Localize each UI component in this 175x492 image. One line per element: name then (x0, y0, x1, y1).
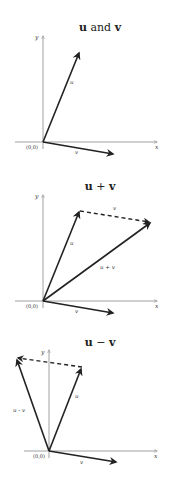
vector-negative-v-translated (18, 358, 82, 367)
panel-u-and-v: u and v y x (0,0) u v (15, 21, 159, 155)
panel-title: u − v (85, 336, 116, 349)
origin-label: (0,0) (26, 144, 38, 150)
y-axis-label: y (34, 33, 39, 41)
panel-title: u + v (85, 180, 116, 193)
vector-v-label: v (75, 308, 79, 314)
x-axis-label: x (154, 452, 158, 459)
vector-u-label: u (75, 393, 79, 399)
origin-label: (0,0) (33, 453, 45, 459)
vector-u-minus-v (17, 360, 49, 451)
origin-label: (0,0) (26, 303, 38, 309)
vector-u (43, 53, 79, 142)
vector-u-minus-v-label: u - v (13, 407, 26, 413)
y-axis-label: y (34, 192, 39, 200)
panel-u-minus-v: u − v y x (0,0) u v u - v (13, 336, 158, 465)
panel-title: u and v (79, 21, 122, 34)
y-axis-label: y (40, 348, 45, 356)
x-axis-label: x (155, 302, 159, 309)
vector-u-label: u (70, 79, 74, 85)
x-axis-label: x (155, 143, 159, 150)
vector-u-label: u (70, 240, 74, 246)
vector-v-label: v (80, 459, 84, 465)
panel-u-plus-v: u + v y x (0,0) u v v u + v (15, 180, 159, 314)
vector-operations-diagram: u and v y x (0,0) u v u + v y x (0,0) u … (0, 0, 175, 492)
vector-v-label: v (75, 149, 79, 155)
vector-u-plus-v-label: u + v (100, 264, 116, 270)
vector-v-translated (80, 211, 149, 222)
vector-u (49, 369, 81, 451)
vector-v-translated-label: v (113, 205, 117, 211)
